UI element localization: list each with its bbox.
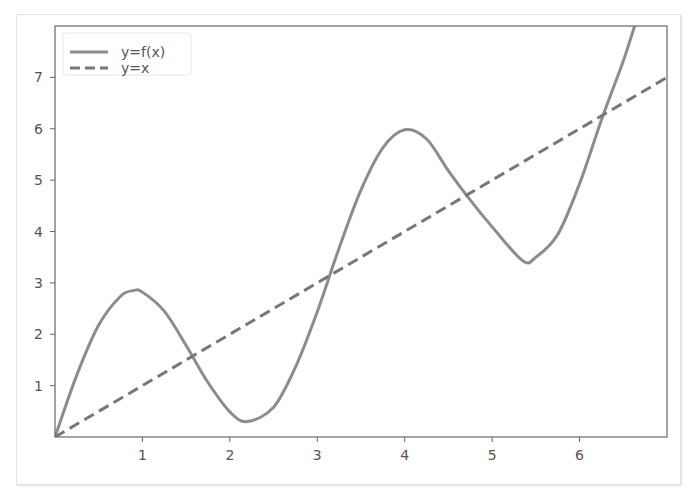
x-tick-label: 5 <box>488 447 497 463</box>
legend-label-identity: y=x <box>121 60 149 76</box>
y-tick-label: 5 <box>34 172 43 188</box>
line-chart: 1234561234567 y=f(x) y=x <box>0 0 690 501</box>
x-tick-label: 1 <box>138 447 147 463</box>
x-tick-label: 6 <box>575 447 584 463</box>
legend-label-fx: y=f(x) <box>121 44 165 60</box>
series-line-identity <box>55 77 667 437</box>
y-tick-label: 3 <box>34 275 43 291</box>
legend: y=f(x) y=x <box>63 33 191 76</box>
y-tick-label: 2 <box>34 326 43 342</box>
y-tick-label: 4 <box>34 224 43 240</box>
y-tick-label: 7 <box>34 69 43 85</box>
plot-area-border <box>55 26 667 437</box>
x-tick-label: 3 <box>313 447 322 463</box>
x-tick-label: 4 <box>400 447 409 463</box>
y-tick-label: 1 <box>34 378 43 394</box>
y-tick-label: 6 <box>34 121 43 137</box>
x-tick-label: 2 <box>225 447 234 463</box>
